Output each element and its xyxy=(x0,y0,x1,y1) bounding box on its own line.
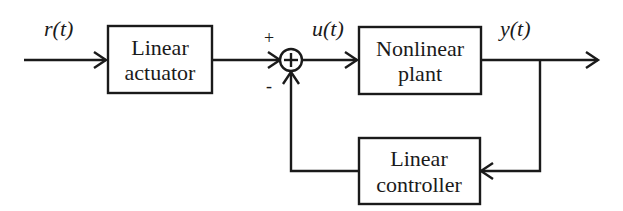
block-linear-controller: Linear controller xyxy=(359,138,480,204)
feedback-branch-wire xyxy=(481,60,540,171)
sum-plus-sign: + xyxy=(264,28,274,48)
signal-label-u: u(t) xyxy=(312,16,344,41)
block-label-line2: controller xyxy=(376,172,462,197)
block-diagram: r(t) Linear actuator + - u(t) Nonlinear … xyxy=(0,0,623,211)
block-label-line1: Linear xyxy=(131,35,189,60)
block-linear-actuator: Linear actuator xyxy=(108,26,212,93)
block-nonlinear-plant: Nonlinear plant xyxy=(359,27,481,94)
summing-junction-icon xyxy=(280,49,302,71)
feedback-return-wire xyxy=(291,72,359,171)
block-label-line2: plant xyxy=(398,61,442,86)
sum-minus-sign: - xyxy=(266,76,272,96)
block-label-line2: actuator xyxy=(125,60,197,85)
signal-label-r: r(t) xyxy=(44,16,73,41)
block-label-line1: Nonlinear xyxy=(376,36,465,61)
block-label-line1: Linear xyxy=(390,146,448,171)
signal-label-y: y(t) xyxy=(498,16,531,41)
